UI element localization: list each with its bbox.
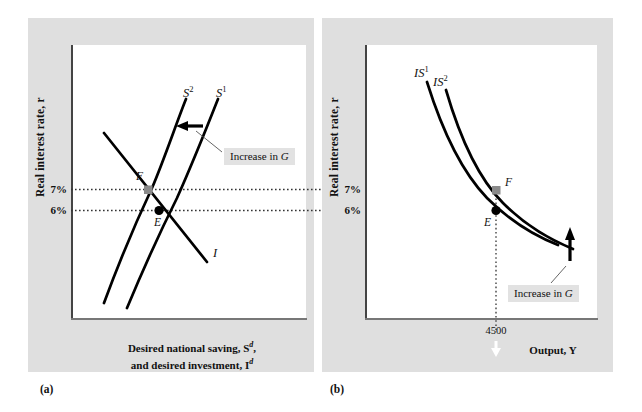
panel-b-leader-line [551, 266, 566, 283]
panel-b-annotation: Increase in G [508, 285, 579, 302]
panel-b-point-F-marker [492, 186, 501, 195]
is-curve-1-base: IS [414, 66, 424, 80]
panel-b-x-axis-label: Output, Y [508, 344, 598, 357]
panel-b-output-tick-arrow [491, 341, 501, 357]
panel-b-annotation-text: Increase in [514, 287, 565, 299]
is-curve-1-sup: 1 [424, 64, 428, 74]
figure-root: Real interest rate, r 7% 6% S2 S1 I F E … [0, 0, 642, 412]
panel-b-annotation-variable: G [565, 287, 573, 299]
panel-b-xtick-4500: 4500 [472, 325, 520, 336]
is-curve-2-sup: 2 [443, 73, 447, 83]
is-curve-2-label: IS2 [433, 73, 448, 90]
panel-b-point-F-label: F [505, 176, 512, 188]
is-curve-2-base: IS [433, 75, 443, 89]
panel-b-up-arrow-icon [565, 227, 575, 261]
is-curve-1-label: IS1 [414, 64, 429, 81]
is-curve-1-path [427, 82, 558, 245]
panel-b-point-E-label: E [484, 216, 491, 228]
panel-b-label: (b) [330, 383, 344, 395]
panel-b-point-E-marker [491, 206, 500, 215]
